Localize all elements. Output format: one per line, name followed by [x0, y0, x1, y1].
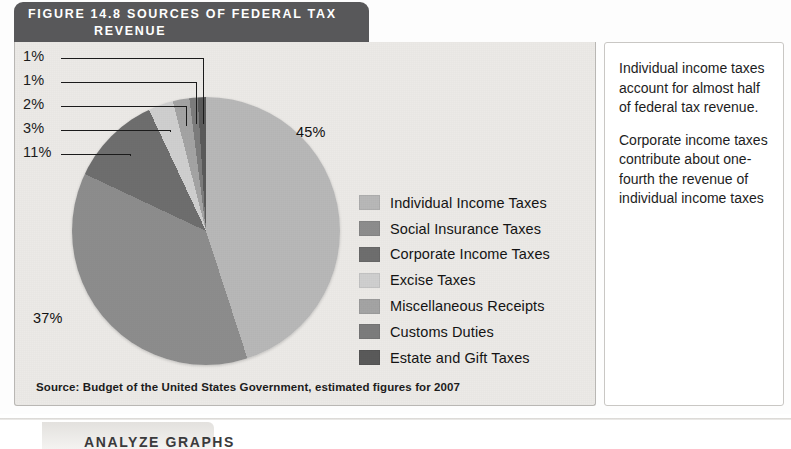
pie-leader-line [186, 106, 187, 126]
legend-swatch [359, 273, 380, 288]
legend-swatch [359, 221, 380, 236]
pie-callout-label: 3% [23, 120, 44, 136]
legend-label: Corporate Income Taxes [390, 246, 550, 262]
legend-label: Excise Taxes [390, 272, 476, 288]
legend-label: Miscellaneous Receipts [390, 298, 545, 314]
bottom-divider [0, 418, 791, 420]
note-paragraph-1: Individual income taxes account for almo… [619, 59, 771, 118]
figure-page: FIGURE 14.8 SOURCES OF FEDERAL TAX REVEN… [0, 0, 791, 449]
legend-item: Customs Duties [359, 319, 594, 345]
legend-item: Miscellaneous Receipts [359, 293, 594, 319]
legend-item: Corporate Income Taxes [359, 242, 594, 268]
chart-legend: Individual Income TaxesSocial Insurance … [359, 190, 594, 371]
pie-leader-line [61, 130, 170, 131]
legend-swatch [359, 324, 380, 339]
legend-item: Individual Income Taxes [359, 190, 594, 216]
legend-swatch [359, 350, 380, 365]
pie-label-individual-income-taxes: 45% [296, 124, 326, 140]
source-note: Source: Budget of the United States Gove… [36, 381, 460, 393]
pie-callout-label: 1% [23, 72, 44, 88]
pie-leader-line [61, 106, 186, 107]
legend-swatch [359, 195, 380, 210]
analyze-graphs-heading: ANALYZE GRAPHS [84, 434, 235, 449]
note-panel: Individual income taxes account for almo… [604, 42, 784, 406]
legend-label: Social Insurance Taxes [390, 221, 541, 237]
legend-item: Excise Taxes [359, 267, 594, 293]
figure-header: FIGURE 14.8 SOURCES OF FEDERAL TAX REVEN… [14, 2, 369, 42]
pie-callout-label: 2% [23, 96, 44, 112]
figure-title-line-2: REVENUE [28, 23, 359, 40]
chart-panel: 1%1%2%3%11% 45% 37% Individual Income Ta… [14, 42, 596, 406]
pie-leader-line [196, 82, 197, 124]
pie-leader-line [61, 154, 130, 155]
legend-label: Customs Duties [390, 324, 494, 340]
note-paragraph-2: Corporate income taxes contribute about … [619, 131, 771, 209]
pie-leader-line [130, 154, 131, 156]
legend-label: Estate and Gift Taxes [390, 350, 530, 366]
pie-leader-line [203, 58, 204, 124]
legend-swatch [359, 299, 380, 314]
figure-title-line-1: FIGURE 14.8 SOURCES OF FEDERAL TAX [28, 6, 359, 23]
legend-swatch [359, 247, 380, 262]
legend-label: Individual Income Taxes [390, 195, 547, 211]
pie-label-social-insurance-taxes: 37% [33, 310, 63, 326]
legend-item: Social Insurance Taxes [359, 216, 594, 242]
pie-leader-line [170, 130, 171, 132]
pie-leader-line [61, 82, 196, 83]
pie-leader-line [61, 58, 203, 59]
pie-callout-label: 1% [23, 48, 44, 64]
legend-item: Estate and Gift Taxes [359, 345, 594, 371]
pie-callout-label: 11% [23, 144, 52, 160]
